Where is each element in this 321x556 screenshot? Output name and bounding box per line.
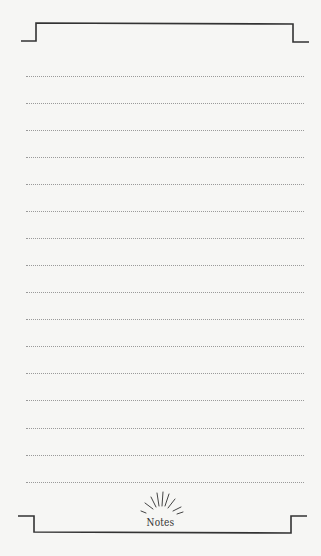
page-title: Notes [29, 516, 292, 529]
ruled-line [26, 157, 304, 158]
ruled-line [26, 103, 304, 104]
notes-page: Notes [0, 0, 321, 556]
bottom-frame-border [0, 0, 321, 556]
ruled-line [26, 265, 304, 266]
ruled-line [26, 455, 304, 456]
ruled-line [26, 346, 304, 347]
ruled-line [26, 130, 304, 131]
top-frame-border [0, 0, 321, 60]
ruled-line [26, 292, 304, 293]
ruled-line [26, 400, 304, 401]
ruled-line [26, 238, 304, 239]
ruled-line [26, 482, 304, 483]
ruled-line [26, 319, 304, 320]
ruled-line [26, 76, 304, 77]
ruled-line [26, 184, 304, 185]
ruled-line [26, 373, 304, 374]
sunburst-icon [137, 488, 187, 518]
ruled-line [26, 211, 304, 212]
ruled-line [26, 428, 304, 429]
